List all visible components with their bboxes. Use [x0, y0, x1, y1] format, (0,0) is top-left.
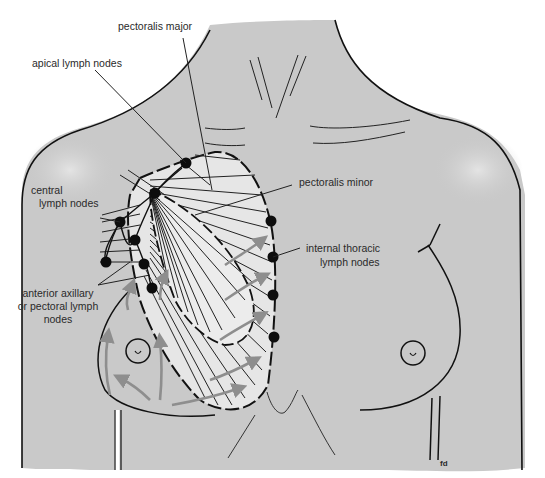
label-anterior-axillary-line1: anterior axillary: [8, 287, 108, 300]
label-apical-lymph-nodes: apical lymph nodes: [32, 57, 122, 70]
label-internal-thoracic-line2: lymph nodes: [320, 256, 380, 269]
central-lymph-node: [150, 188, 161, 199]
internal-thoracic-lymph-node: [266, 216, 277, 227]
label-anterior-axillary-line3: nodes: [8, 313, 108, 326]
label-central-line1: central: [31, 184, 63, 197]
artist-signature: fd: [440, 457, 448, 470]
label-pectoralis-minor: pectoralis minor: [299, 176, 373, 189]
label-central-line2: lymph nodes: [39, 197, 99, 210]
anterior-axillary-lymph-node: [101, 257, 112, 268]
anterior-axillary-lymph-node: [147, 283, 158, 294]
central-lymph-node: [130, 235, 141, 246]
breast-lymphatic-diagram: pectoralis major apical lymph nodes cent…: [0, 0, 545, 478]
anterior-axillary-lymph-node: [139, 259, 150, 270]
label-internal-thoracic-line1: internal thoracic: [306, 242, 380, 255]
label-pectoralis-major: pectoralis major: [118, 20, 192, 33]
label-anterior-axillary-line2: or pectoral lymph: [8, 300, 108, 313]
anatomy-illustration: [0, 0, 545, 478]
internal-thoracic-lymph-node: [268, 290, 279, 301]
internal-thoracic-lymph-node: [269, 332, 280, 343]
